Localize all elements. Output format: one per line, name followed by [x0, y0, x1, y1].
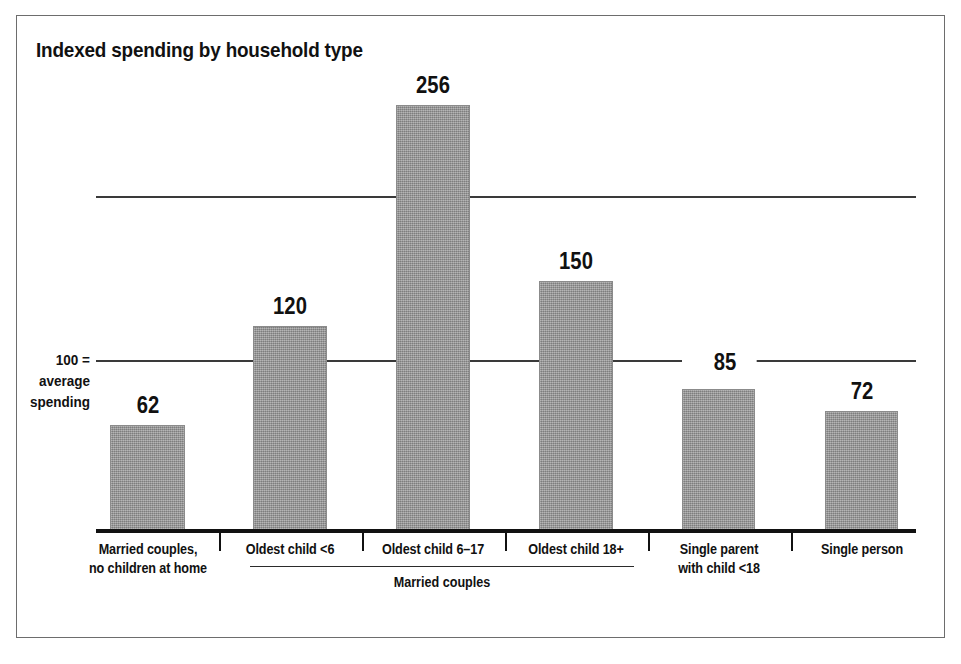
category-label-oldest-child-18-plus: Oldest child 18+: [517, 540, 636, 559]
bar-oldest-child-6-17: [396, 105, 470, 530]
category-label-line-1: Single parent: [660, 540, 779, 559]
category-label-line-2: no children at home: [84, 559, 212, 578]
bar-value-256: 256: [398, 72, 468, 99]
axis-tick-3: [505, 533, 507, 551]
axis-tick-4: [648, 533, 650, 551]
bar-oldest-child-under-6: [253, 326, 327, 530]
bar-single-parent: [682, 389, 755, 530]
category-label-line-1: Married couples,: [84, 540, 212, 559]
gridline-100-right: [755, 360, 916, 362]
category-label-single-parent: Single parent with child <18: [660, 540, 779, 578]
bar-single-person: [825, 411, 898, 530]
bar-value-150: 150: [541, 248, 611, 275]
category-label-line-1: Oldest child <6: [231, 540, 350, 559]
category-label-line-1: Single person: [803, 540, 922, 559]
axis-tick-1: [219, 533, 221, 551]
y-axis-label-line-1: 100 =: [0, 349, 90, 370]
plot-area: 62 120 256 150 85 72 100 = average spend…: [0, 0, 961, 664]
category-label-oldest-child-6-17: Oldest child 6–17: [374, 540, 493, 559]
bar-value-85: 85: [693, 349, 756, 376]
axis-tick-5: [791, 533, 793, 551]
y-axis-label-line-2: average: [0, 370, 90, 391]
bar-oldest-child-18-plus: [539, 281, 613, 530]
bar-married-no-children: [110, 425, 185, 530]
bar-value-120: 120: [255, 293, 325, 320]
category-label-line-1: Oldest child 18+: [517, 540, 636, 559]
group-bracket-line: [250, 566, 634, 567]
axis-tick-2: [362, 533, 364, 551]
bar-value-62: 62: [113, 392, 183, 419]
y-axis-label-line-3: spending: [0, 391, 90, 412]
chart-figure: Indexed spending by household type 62 12…: [0, 0, 961, 664]
bar-value-72: 72: [827, 378, 897, 405]
category-label-line-1: Oldest child 6–17: [374, 540, 493, 559]
category-label-oldest-child-under-6: Oldest child <6: [231, 540, 350, 559]
group-bracket-label: Married couples: [269, 574, 615, 590]
gridline-200: [96, 196, 916, 198]
y-axis-label: 100 = average spending: [0, 349, 90, 412]
category-label-single-person: Single person: [803, 540, 922, 559]
category-label-line-2: with child <18: [660, 559, 779, 578]
category-label-married-no-children: Married couples, no children at home: [84, 540, 212, 578]
